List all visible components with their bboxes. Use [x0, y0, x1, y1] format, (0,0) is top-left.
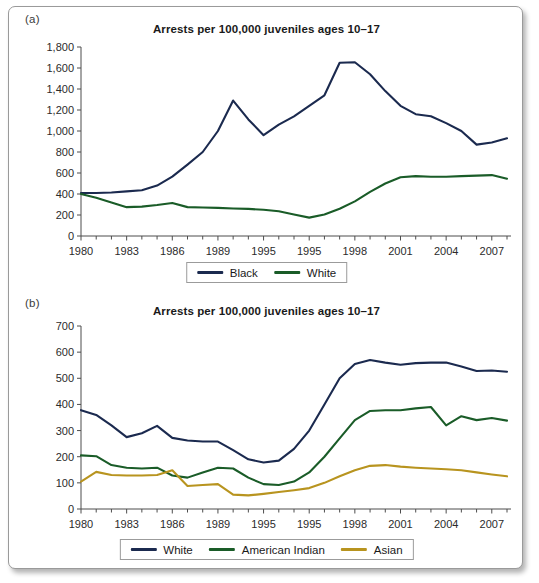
x-tick-label: 1983 [114, 518, 138, 530]
x-tick-label: 1989 [206, 518, 230, 530]
y-tick-label: 700 [56, 320, 74, 332]
chart-panel-b: (b) Arrests per 100,000 juveniles ages 1… [9, 291, 523, 569]
y-tick-label: 100 [56, 477, 74, 489]
x-tick-label: 1998 [343, 518, 367, 530]
y-tick-label: 300 [56, 425, 74, 437]
x-tick-label: 1995 [297, 518, 321, 530]
x-tick-label: 1995 [251, 245, 275, 257]
chart-panel-a: (a) Arrests per 100,000 juveniles ages 1… [9, 7, 523, 291]
legend-label: Asian [374, 544, 403, 556]
legend-entry-american-indian[interactable]: American Indian [209, 544, 325, 556]
legend-entry-black[interactable]: Black [197, 267, 258, 279]
legend-swatch-icon [274, 271, 300, 274]
y-tick-label: 1,200 [46, 104, 74, 116]
chart-plot-b: 0100200300400500600700198019831986198919… [9, 291, 523, 546]
x-tick-label: 1980 [69, 518, 93, 530]
x-tick-label: 1995 [297, 245, 321, 257]
x-tick-label: 2004 [434, 518, 458, 530]
chart-legend-b: WhiteAmerican IndianAsian [119, 539, 413, 560]
series-line-white [81, 175, 507, 218]
x-tick-label: 1995 [251, 518, 275, 530]
legend-swatch-icon [197, 271, 223, 274]
legend-swatch-icon [341, 548, 367, 551]
series-line-white [81, 360, 507, 462]
series-line-black [81, 62, 507, 193]
y-tick-label: 800 [56, 146, 74, 158]
x-tick-label: 1980 [69, 245, 93, 257]
x-tick-label: 2001 [388, 518, 412, 530]
x-tick-label: 1986 [160, 518, 184, 530]
y-tick-label: 600 [56, 167, 74, 179]
legend-entry-asian[interactable]: Asian [341, 544, 403, 556]
x-tick-label: 1989 [206, 245, 230, 257]
series-line-asian [81, 465, 507, 495]
x-tick-label: 2007 [480, 245, 504, 257]
y-tick-label: 0 [68, 503, 74, 515]
x-tick-label: 2004 [434, 245, 458, 257]
x-tick-label: 1986 [160, 245, 184, 257]
y-tick-label: 1,000 [46, 125, 74, 137]
legend-label: White [307, 267, 336, 279]
y-tick-label: 200 [56, 209, 74, 221]
series-line-american-indian [81, 407, 507, 485]
legend-swatch-icon [209, 548, 235, 551]
legend-label: American Indian [242, 544, 325, 556]
y-tick-label: 200 [56, 451, 74, 463]
y-tick-label: 1,600 [46, 62, 74, 74]
y-tick-label: 600 [56, 346, 74, 358]
legend-entry-white[interactable]: White [274, 267, 336, 279]
y-tick-label: 1,400 [46, 83, 74, 95]
x-tick-label: 1983 [114, 245, 138, 257]
x-tick-label: 1998 [343, 245, 367, 257]
legend-label: White [163, 544, 192, 556]
legend-swatch-icon [130, 548, 156, 551]
y-tick-label: 400 [56, 188, 74, 200]
legend-label: Black [230, 267, 258, 279]
legend-entry-white[interactable]: White [130, 544, 192, 556]
x-tick-label: 2007 [480, 518, 504, 530]
chart-legend-a: BlackWhite [186, 262, 348, 283]
y-tick-label: 1,800 [46, 41, 74, 53]
y-tick-label: 400 [56, 398, 74, 410]
x-tick-label: 2001 [388, 245, 412, 257]
y-tick-label: 0 [68, 230, 74, 242]
figure-frame: (a) Arrests per 100,000 juveniles ages 1… [8, 6, 523, 569]
y-tick-label: 500 [56, 372, 74, 384]
chart-plot-a: 02004006008001,0001,2001,4001,6001,80019… [9, 7, 523, 267]
